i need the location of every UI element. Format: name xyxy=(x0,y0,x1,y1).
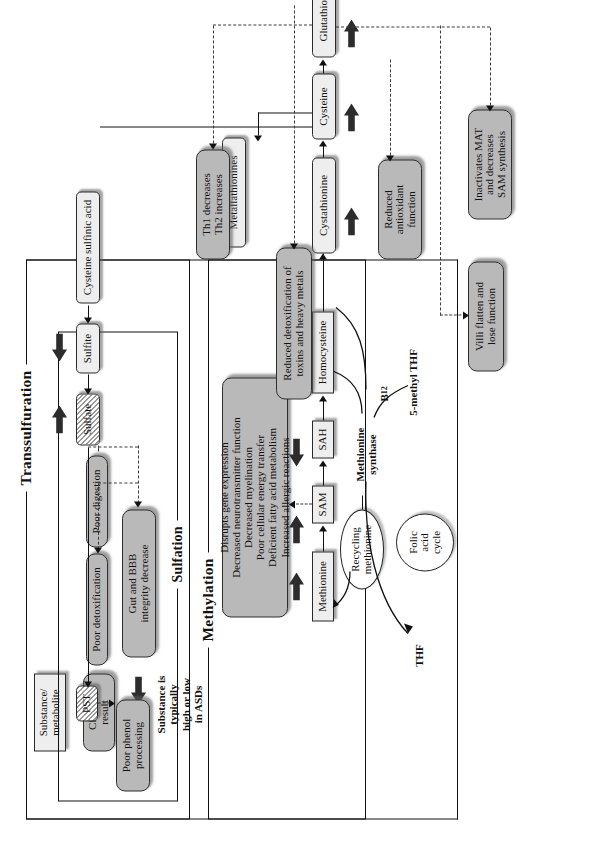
arrowhead-pst-to-phenol xyxy=(109,699,115,707)
line-sulfate-to-pst xyxy=(88,447,89,683)
node-csa-label: Cysteine sulfinic acid xyxy=(82,199,94,294)
result-poor-digestion: Poor digestion xyxy=(86,455,108,547)
dash-glutathione-th1 xyxy=(213,25,214,143)
arrowhead-cystathionine-cysteine xyxy=(319,140,327,146)
arrowhead-sulfate-to-detox xyxy=(94,547,102,553)
node-cysteine-label: Cysteine xyxy=(318,87,330,126)
node-glutathione-main: Glutathione xyxy=(312,0,336,57)
arrowhead-villi xyxy=(463,311,469,319)
dash-sulfate-to-digestion-h xyxy=(98,445,99,451)
result-poor-detoxification: Poor detoxification xyxy=(86,553,108,665)
node-cysteine-sulfinic-acid: Cysteine sulfinic acid xyxy=(76,191,100,303)
dash-sulfate-to-detox-h xyxy=(98,483,99,549)
sulfation-section-label: Sulfation xyxy=(170,520,186,588)
arrowhead-homocysteine-cystathionine xyxy=(319,253,327,259)
arrowhead-cysteine-to-metallathionines xyxy=(254,135,262,141)
th1-line2: Th2 increases xyxy=(213,174,225,235)
dash-sulfate-villi-h xyxy=(440,25,441,315)
node-sulfate: Sulfate xyxy=(76,393,100,445)
gut-bbb-line2: integrity decrease xyxy=(139,544,151,622)
poor-detox-label: Poor detoxification xyxy=(91,567,103,652)
dash-sulfate-to-detox-v xyxy=(98,482,138,483)
cystathionine-low-arrow-icon xyxy=(344,209,359,235)
result-inactivates-mat: Inactivates MAT and decreases SAM synthe… xyxy=(468,109,512,219)
result-th1-decreases: Th1 decreases Th2 increases xyxy=(196,149,230,259)
sulfate-low-arrow-icon xyxy=(52,407,67,433)
node-cystathionine: Cystathionine xyxy=(312,157,336,253)
node-glutathione-label: Glutathione xyxy=(318,0,330,41)
dash-sulfate-vert xyxy=(88,446,138,447)
antiox-line3: function xyxy=(406,191,418,228)
node-sulfate-label: Sulfate xyxy=(82,403,94,434)
node-pst-label: PST xyxy=(81,694,93,713)
dash-glutathione-mat xyxy=(490,27,491,105)
line-cysteine-to-metallathionines xyxy=(258,112,259,135)
poor-digestion-label: Poor digestion xyxy=(91,469,103,533)
pathway-canvas: Substance/ metabolite Clinical result Su… xyxy=(0,0,594,843)
sulfite-high-arrow-icon xyxy=(52,335,67,361)
arrowhead-cysteine-glutathione xyxy=(319,59,327,65)
dash-glutathione-mat-v xyxy=(336,26,490,27)
result-gut-bbb: Gut and BBB integrity decrease xyxy=(122,509,156,657)
dash-glutathione-th1-v xyxy=(213,24,312,25)
arrowhead-sulfate-to-pst xyxy=(84,681,92,687)
result-reduced-antioxidant: Reduced antioxidant function xyxy=(378,159,422,259)
node-sulfite: Sulfite xyxy=(76,323,100,373)
glutathione-low-arrow-icon xyxy=(344,21,359,47)
arrowhead-glutathione-reduceddetox xyxy=(290,243,298,249)
node-cysteine: Cysteine xyxy=(312,73,336,139)
arrowhead-glutathione-th1 xyxy=(209,143,217,149)
cysteine-low-arrow-icon xyxy=(344,105,359,131)
reduced-detox-line2: toxins and heavy metals xyxy=(294,270,306,376)
arrowhead-csa-sulfite xyxy=(84,317,92,323)
node-pst: PST xyxy=(76,685,98,721)
curve-homocysteine-recycle xyxy=(332,303,372,395)
node-cystathionine-label: Cystathionine xyxy=(318,174,330,235)
dash-glutathione-antiox xyxy=(390,59,391,155)
dash-glutathione-reduceddetox xyxy=(294,5,295,243)
arrowhead-sulfite-sulfate xyxy=(84,388,92,394)
poor-phenol-line2: processing xyxy=(133,721,145,768)
result-reduced-detox-toxins: Reduced detoxification of toxins and hea… xyxy=(276,247,312,399)
result-poor-phenol-processing: Poor phenol processing xyxy=(116,699,150,791)
dash-sulfate-main xyxy=(138,445,139,503)
line-cysteine-up xyxy=(258,112,312,113)
villi-line2: lose function xyxy=(486,287,498,344)
result-villi-flatten: Villi flatten and lose function xyxy=(468,261,504,371)
node-sulfite-label: Sulfite xyxy=(82,333,94,362)
figure-root: Substance/ metabolite Clinical result Su… xyxy=(0,0,594,843)
arrowhead-sulfate-gut xyxy=(134,501,142,507)
line-cysteine-to-csa xyxy=(100,126,312,127)
arrowhead-glutathione-mat xyxy=(486,105,494,111)
mat-line3: SAM synthesis xyxy=(496,131,508,198)
arrowhead-glutathione-antiox xyxy=(386,155,394,161)
